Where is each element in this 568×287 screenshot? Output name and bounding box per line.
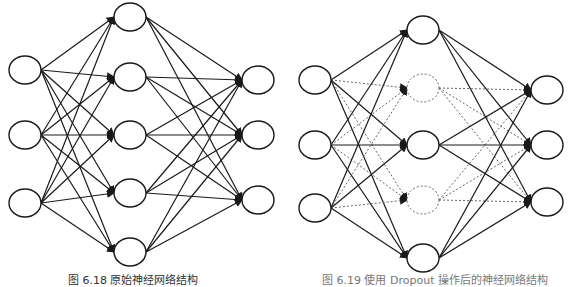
connection — [146, 77, 242, 200]
neurons — [299, 16, 563, 272]
connection — [41, 70, 114, 135]
connection — [146, 135, 242, 193]
original-network-diagram — [9, 3, 274, 266]
hidden-neuron — [407, 16, 439, 44]
connection — [331, 80, 407, 145]
dropped-hidden-neuron — [407, 186, 439, 214]
hidden-neuron — [114, 179, 146, 207]
connection — [146, 17, 242, 135]
output-neuron — [531, 76, 563, 104]
connection — [41, 70, 114, 252]
input-neuron — [299, 194, 331, 222]
hidden-neuron — [407, 131, 439, 159]
connection — [331, 30, 407, 145]
hidden-neuron — [114, 3, 146, 31]
connection — [146, 17, 242, 80]
dropout-network-diagram — [299, 16, 563, 272]
connection — [146, 17, 242, 200]
connection — [439, 30, 531, 90]
input-neuron — [9, 121, 41, 149]
dropped-hidden-neuron — [407, 74, 439, 102]
connection — [439, 202, 531, 258]
connection — [41, 77, 114, 135]
input-neuron — [299, 131, 331, 159]
figure-caption-dropout: 图 6.19 使用 Dropout 操作后的神经网络结构 — [322, 271, 548, 287]
output-neuron — [531, 131, 563, 159]
output-neuron — [531, 188, 563, 216]
connection — [439, 145, 531, 258]
hidden-neuron — [114, 238, 146, 266]
connection — [146, 80, 242, 193]
connection — [146, 135, 242, 200]
figure-caption-original: 图 6.18 原始神经网络结构 — [68, 271, 199, 287]
connection — [41, 203, 114, 252]
input-neuron — [9, 189, 41, 217]
input-neuron — [299, 66, 331, 94]
connection — [331, 145, 407, 208]
output-neuron — [242, 66, 274, 94]
dropped-connection — [331, 88, 407, 145]
dropped-connection — [331, 145, 407, 200]
connection — [439, 30, 531, 145]
output-neuron — [242, 121, 274, 149]
input-neuron — [9, 56, 41, 84]
output-neuron — [242, 186, 274, 214]
hidden-neuron — [114, 121, 146, 149]
hidden-neuron — [407, 244, 439, 272]
connection — [331, 30, 407, 80]
connection — [146, 77, 242, 80]
connection — [331, 208, 407, 258]
hidden-neuron — [114, 63, 146, 91]
